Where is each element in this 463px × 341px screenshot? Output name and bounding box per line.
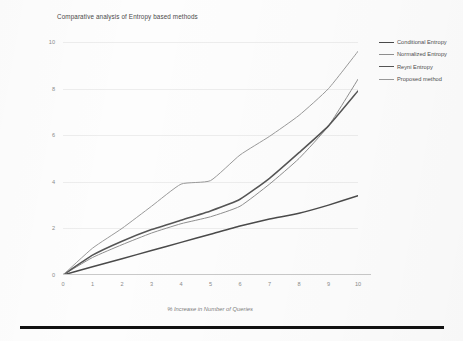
x-tick-label-4: 4 [174,281,188,287]
page-edge-bar [20,326,444,329]
x-tick-label-5: 5 [204,281,218,287]
x-tick-label-0: 0 [56,281,70,287]
series-line-proposed-method [63,51,358,275]
y-tick-label-10: 10 [37,39,55,45]
series-line-conditional-entropy [63,196,358,275]
chart-page: Comparative analysis of Entropy based me… [0,0,463,341]
legend-swatch-icon [379,66,394,67]
y-tick-label-6: 6 [37,132,55,138]
legend-swatch-icon [379,54,394,55]
legend: Conditional EntropyNormalized EntropyRey… [379,39,447,82]
x-tick-label-10: 10 [351,281,365,287]
series-line-reyni-entropy [63,91,358,275]
legend-swatch-icon [379,79,394,80]
legend-item-conditional-entropy[interactable]: Conditional Entropy [379,39,447,45]
legend-item-reyni-entropy[interactable]: Reyni Entropy [379,64,447,70]
x-axis-title: % Increase in Number of Queries [0,306,420,312]
legend-label: Reyni Entropy [397,64,433,70]
page-title: Comparative analysis of Entropy based me… [57,13,198,20]
x-tick-label-8: 8 [292,281,306,287]
y-tick-label-8: 8 [37,86,55,92]
x-tick-label-3: 3 [145,281,159,287]
legend-label: Proposed method [397,76,442,82]
legend-label: Normalized Entropy [397,51,447,57]
legend-label: Conditional Entropy [397,39,447,45]
x-tick-label-7: 7 [263,281,277,287]
y-tick-label-4: 4 [37,179,55,185]
legend-swatch-icon [379,42,394,43]
x-tick-label-1: 1 [86,281,100,287]
legend-item-proposed-method[interactable]: Proposed method [379,76,447,82]
plot-area [63,42,358,275]
x-tick-label-2: 2 [115,281,129,287]
y-tick-label-2: 2 [37,225,55,231]
x-axis-line [63,274,371,275]
x-tick-label-9: 9 [322,281,336,287]
series-line-normalized-entropy [63,79,358,275]
legend-item-normalized-entropy[interactable]: Normalized Entropy [379,51,447,57]
x-tick-label-6: 6 [233,281,247,287]
series-curves [63,42,358,275]
y-tick-label-0: 0 [37,272,55,278]
